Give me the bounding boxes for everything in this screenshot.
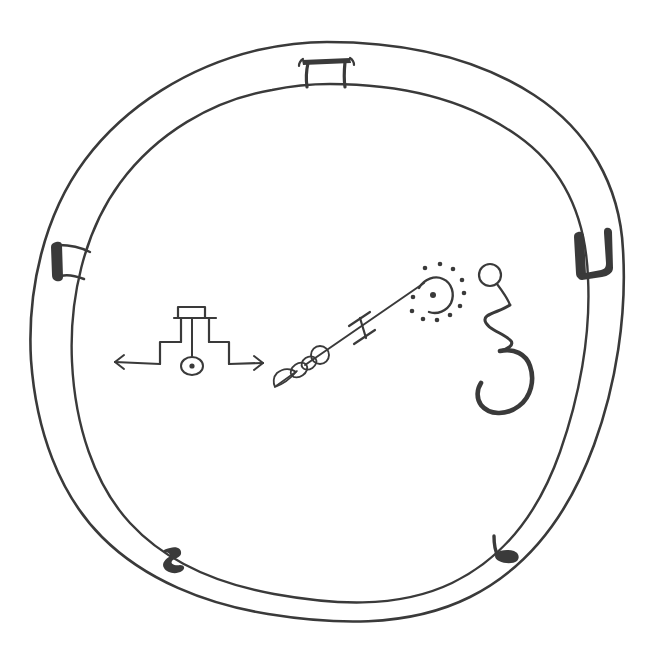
shaft-line xyxy=(305,283,424,365)
symbol-diagonal-staff xyxy=(274,262,467,387)
rim-mark-bottom-left xyxy=(163,547,184,573)
serpent-coil-hook xyxy=(478,350,532,413)
serpent-neck xyxy=(497,284,510,305)
rim-mark-top xyxy=(299,58,354,87)
serpent-head-circle xyxy=(479,264,501,286)
artifact-line-drawing xyxy=(0,0,657,652)
rim-mark-bottom-right xyxy=(494,536,519,563)
symbol-stepped-altar xyxy=(115,307,263,375)
lower-step-right xyxy=(209,342,229,364)
upper-platform xyxy=(181,318,209,342)
crescent-centre-dot xyxy=(430,292,436,298)
outer-ring xyxy=(30,42,623,622)
serpent-zigzag-body xyxy=(485,305,512,351)
rim-mark-right xyxy=(574,228,613,280)
lower-step-left xyxy=(160,342,181,364)
symbol-serpent xyxy=(478,264,532,413)
figure-root: Line drawing of a circular engraved disc… xyxy=(0,0,657,652)
ground-line-with-arrow-tips xyxy=(115,362,160,364)
